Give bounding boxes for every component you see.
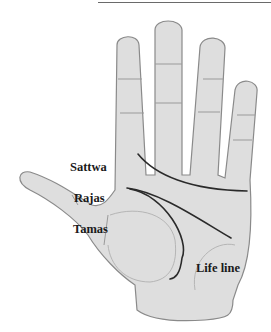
label-tamas: Tamas <box>73 222 108 237</box>
hand-illustration <box>0 0 271 332</box>
label-rajas: Rajas <box>74 191 105 206</box>
label-life-line: Life line <box>196 261 240 276</box>
label-sattwa: Sattwa <box>70 160 107 175</box>
